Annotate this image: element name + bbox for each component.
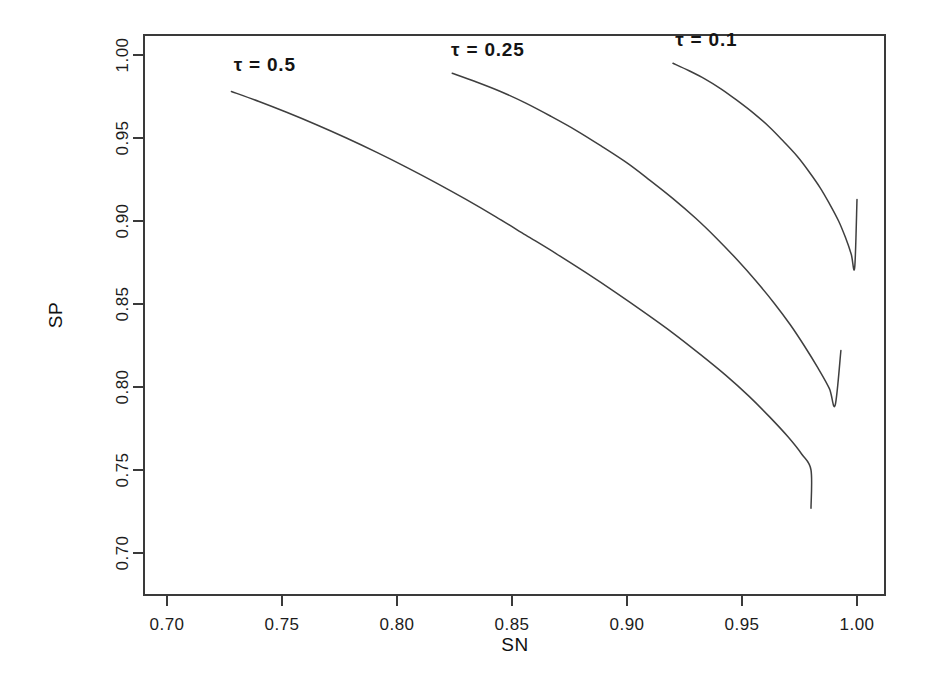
curve-label-tau-0.1: τ = 0.1 [675, 29, 737, 50]
x-axis-title: SN [501, 634, 529, 655]
x-tick-label: 0.70 [149, 615, 184, 634]
x-tick-label: 1.00 [839, 615, 874, 634]
x-tick-label: 0.80 [379, 615, 414, 634]
curve-label-tau-0.5: τ = 0.5 [234, 54, 296, 75]
curve-label-tau-0.25: τ = 0.25 [451, 39, 525, 60]
y-tick-label: 0.75 [113, 452, 132, 487]
y-tick-label: 0.90 [113, 203, 132, 238]
x-tick-label: 0.75 [264, 615, 299, 634]
x-tick-label: 0.95 [724, 615, 759, 634]
y-tick-label: 0.85 [113, 286, 132, 321]
x-tick-label: 0.90 [609, 615, 644, 634]
chart-plot-area: 0.700.750.800.850.900.951.00 0.700.750.8… [0, 0, 932, 677]
y-tick-label: 0.95 [113, 120, 132, 155]
y-tick-label: 1.00 [113, 37, 132, 72]
x-tick-label: 0.85 [494, 615, 529, 634]
figure-background [0, 0, 932, 677]
y-axis-title: SP [45, 302, 66, 329]
y-tick-label: 0.70 [113, 535, 132, 570]
y-tick-label: 0.80 [113, 369, 132, 404]
chart-figure: 0.700.750.800.850.900.951.00 0.700.750.8… [0, 0, 932, 677]
